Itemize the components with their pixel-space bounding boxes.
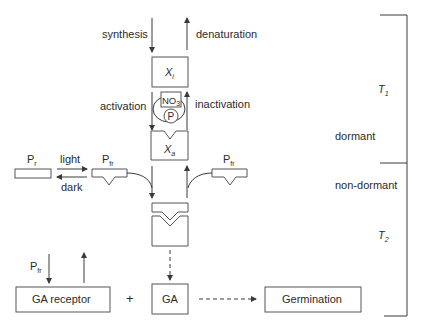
- plus-sign: +: [126, 291, 134, 306]
- pr-box: [15, 169, 51, 178]
- t2-label: T2: [378, 229, 389, 243]
- pfr-right-shape: [212, 169, 247, 185]
- non-dormant-label: non-dormant: [335, 179, 397, 191]
- pfr-right-label: Pfr: [223, 153, 235, 167]
- dormant-label: dormant: [335, 130, 375, 142]
- light-label: light: [60, 153, 80, 165]
- inactivation-label: inactivation: [195, 98, 250, 110]
- synthesis-label: synthesis: [102, 28, 148, 40]
- ga-receptor-label: GA receptor: [32, 293, 91, 305]
- seed-dormancy-diagram: synthesis denaturation Xi activation ina…: [0, 0, 421, 330]
- pfr-left-label: Pfr: [102, 153, 114, 167]
- pfr-left-curve: [127, 173, 152, 188]
- t1-label: T1: [378, 83, 389, 97]
- p-label: P: [168, 111, 175, 122]
- pr-label: Pr: [27, 153, 37, 167]
- pfr-left-shape: [92, 169, 127, 185]
- time-bracket: [380, 15, 407, 316]
- activation-label: activation: [100, 100, 146, 112]
- pfr-right-curve: [188, 173, 212, 188]
- pfr-receptor-label: Pfr: [30, 260, 42, 274]
- germination-label: Germination: [282, 293, 342, 305]
- dark-label: dark: [61, 181, 83, 193]
- denaturation-label: denaturation: [196, 28, 257, 40]
- ga-label: GA: [162, 293, 179, 305]
